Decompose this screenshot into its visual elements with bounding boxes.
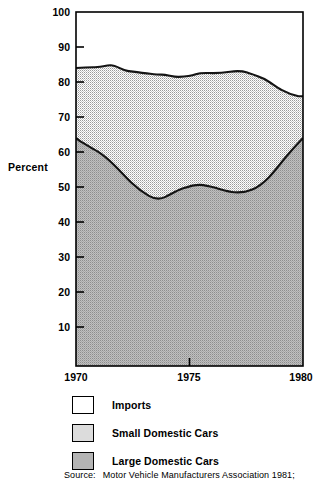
y-tick-20: 20	[42, 286, 70, 298]
legend-label-large-domestic-cars: Large Domestic Cars	[112, 455, 219, 467]
x-tick-1980: 1980	[279, 371, 319, 383]
source-note: Source:Motor Vehicle Manufacturers Assoc…	[64, 470, 295, 480]
legend-label-imports: Imports	[112, 399, 151, 411]
y-tick-90: 90	[42, 41, 70, 53]
legend-item-imports: Imports	[72, 396, 219, 414]
y-tick-70: 70	[42, 111, 70, 123]
y-tick-100: 100	[42, 6, 70, 18]
y-tick-10: 10	[42, 321, 70, 333]
legend-item-small-domestic-cars: Small Domestic Cars	[72, 424, 219, 442]
chart-legend: Imports Small Domestic Cars Large Domest…	[72, 396, 219, 480]
legend-swatch-small-domestic-cars	[72, 424, 94, 442]
y-tick-50: 50	[42, 181, 70, 193]
y-tick-60: 60	[42, 146, 70, 158]
legend-swatch-large-domestic-cars	[72, 452, 94, 470]
x-tick-1975: 1975	[167, 371, 211, 383]
source-label: Source:	[64, 470, 96, 480]
x-tick-1970: 1970	[54, 371, 98, 383]
legend-item-large-domestic-cars: Large Domestic Cars	[72, 452, 219, 470]
legend-label-small-domestic-cars: Small Domestic Cars	[112, 427, 218, 439]
y-tick-40: 40	[42, 216, 70, 228]
source-text: Motor Vehicle Manufacturers Association …	[103, 470, 295, 480]
legend-swatch-imports	[72, 396, 94, 414]
y-axis-title: Percent	[8, 161, 48, 173]
y-tick-80: 80	[42, 76, 70, 88]
y-tick-30: 30	[42, 251, 70, 263]
